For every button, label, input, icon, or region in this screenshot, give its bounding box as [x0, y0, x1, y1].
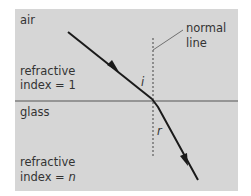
normal-label-line2: line [186, 36, 207, 50]
normal-label-line1: normal [186, 21, 226, 35]
air-ri-line2: index = 1 [20, 78, 76, 92]
glass-ri-line1: refractive [20, 155, 75, 169]
glass-ri-symbol: n [68, 170, 75, 184]
angle-incidence-label: i [141, 75, 144, 89]
refracted-arrow-icon [180, 153, 188, 166]
air-ri-line1: refractive [20, 64, 75, 78]
refracted-ray [152, 99, 198, 180]
glass-ri-line2: index = n [20, 170, 76, 184]
incident-arrow-icon [107, 60, 119, 72]
air-label: air [20, 13, 35, 27]
glass-label: glass [20, 105, 50, 119]
glass-ri-prefix: index = [20, 170, 68, 184]
normal-label-leader [153, 30, 183, 50]
angle-refraction-label: r [157, 124, 162, 138]
